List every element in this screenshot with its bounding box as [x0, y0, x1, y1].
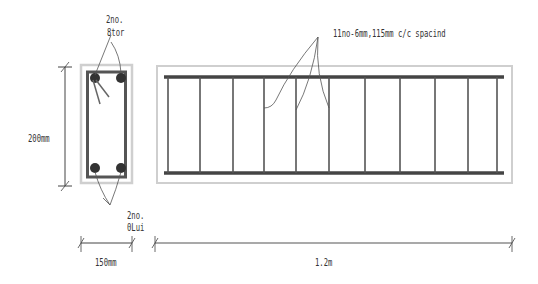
bar-top-right	[116, 73, 126, 83]
bottom-bar-count-label: 2no.	[127, 210, 144, 221]
top-bar-count-label: 2no.	[106, 14, 123, 25]
bar-bottom-right	[116, 163, 126, 173]
width-dimension-label: 150mm	[95, 257, 117, 268]
cross-section	[58, 35, 135, 252]
bar-bottom-left	[90, 163, 100, 173]
top-bar-leader	[95, 35, 121, 75]
bottom-bar-size-label: 0Lui	[127, 222, 144, 233]
stirrup-note-label: 11no-6mm,115mm c/c spacind	[333, 28, 446, 39]
height-dimension-label: 200mm	[28, 133, 50, 144]
beam-detail-drawing: 2no. 8tor 2no. 0Lui 200mm 150mm 11no-6mm…	[0, 0, 538, 284]
stirrup-section	[88, 72, 126, 177]
length-dimension-label: 1.2m	[315, 257, 332, 268]
stirrups	[168, 77, 497, 173]
longitudinal-view	[152, 37, 515, 252]
beam-concrete-outline	[157, 66, 512, 183]
top-bar-size-label: 8tor	[107, 27, 124, 38]
